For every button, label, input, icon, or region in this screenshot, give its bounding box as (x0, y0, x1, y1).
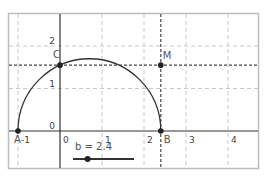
x-tick-label: 3 (189, 135, 195, 145)
y-tick-label: 1 (49, 79, 55, 89)
point-label-A: A (14, 134, 21, 145)
y-tick-label: 2 (49, 36, 55, 46)
x-tick-label: 4 (231, 135, 237, 145)
x-tick-label: 2 (147, 135, 153, 145)
graphics-view[interactable]: -101234012 ABCM b = 2.4 (0, 0, 273, 176)
point-C[interactable] (57, 62, 63, 68)
point-label-C: C (53, 49, 60, 60)
x-tick-label: -1 (21, 135, 30, 145)
slider-label: b = 2.4 (75, 141, 112, 152)
x-tick-label-0: 0 (63, 135, 69, 145)
point-A[interactable] (15, 128, 21, 134)
point-label-B: B (164, 134, 171, 145)
slider-knob[interactable] (85, 156, 91, 162)
y-tick-label: 0 (49, 121, 55, 131)
view-frame (9, 14, 259, 169)
point-M[interactable] (158, 62, 164, 68)
point-B[interactable] (158, 128, 164, 134)
point-label-M: M (163, 50, 172, 61)
